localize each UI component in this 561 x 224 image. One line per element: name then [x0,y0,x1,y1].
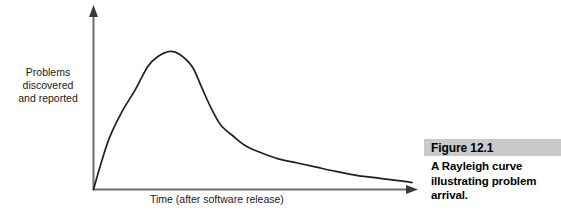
y-axis-label: Problems discovered and reported [8,66,88,105]
figure-page: Problems discovered and reported Time (a… [0,0,561,224]
y-axis [89,5,98,190]
rayleigh-curve-chart: Problems discovered and reported Time (a… [0,0,425,224]
rayleigh-curve-path [94,51,413,189]
figure-caption-block: Figure 12.1 A Rayleigh curve illustratin… [424,139,561,203]
figure-number-label: Figure 12.1 [431,141,493,155]
chart-svg [0,0,425,224]
x-axis-label: Time (after software release) [150,193,284,206]
figure-caption-text: A Rayleigh curve illustrating problem ar… [424,156,561,203]
figure-number-highlight-bar: Figure 12.1 [424,139,561,156]
